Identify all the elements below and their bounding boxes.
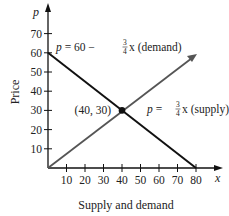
y-tick-label: 10 xyxy=(31,143,43,155)
y-tick-label: 60 xyxy=(31,47,43,59)
y-axis-symbol: p xyxy=(32,5,39,19)
y-tick-label: 70 xyxy=(31,28,43,40)
y-axis-arrow-icon xyxy=(45,3,51,12)
x-tick-label: 70 xyxy=(172,174,184,186)
supply-demand-chart: 10 20 30 40 50 60 70 10 20 30 40 50 60 7… xyxy=(0,0,229,216)
demand-frac-den: 4 xyxy=(123,47,127,56)
y-tick-label: 20 xyxy=(31,124,43,136)
x-tick-label: 10 xyxy=(61,174,73,186)
demand-frac-num: 3 xyxy=(123,38,127,47)
x-tick-label: 40 xyxy=(116,174,128,186)
x-tick-label: 80 xyxy=(190,174,202,186)
equilibrium-label: (40, 30) xyxy=(75,104,112,117)
x-axis-title: Supply and demand xyxy=(78,198,173,212)
supply-prefix: = xyxy=(153,103,162,115)
x-tick-label: 50 xyxy=(135,174,147,186)
y-tick-label: 30 xyxy=(31,104,43,116)
demand-prefix: = 60 − xyxy=(62,41,95,53)
y-tick-label: 50 xyxy=(31,66,43,78)
demand-suffix: x (demand) xyxy=(129,41,182,54)
y-ticks: 10 20 30 40 50 60 70 xyxy=(31,28,53,155)
equilibrium-point xyxy=(119,107,126,114)
x-tick-label: 60 xyxy=(153,174,165,186)
x-tick-label: 20 xyxy=(79,174,91,186)
supply-frac-den: 4 xyxy=(176,109,180,118)
supply-suffix: x (supply) xyxy=(182,103,229,116)
supply-equation-label: p = 3 4 x (supply) xyxy=(146,100,229,118)
x-tick-label: 30 xyxy=(98,174,110,186)
svg-text:p = 60 −: p = 60 − xyxy=(55,41,95,54)
svg-text:x (supply): x (supply) xyxy=(182,103,229,116)
supply-frac-num: 3 xyxy=(176,100,180,109)
x-ticks: 10 20 30 40 50 60 70 80 xyxy=(61,164,202,186)
svg-text:p =: p = xyxy=(146,103,162,116)
axes xyxy=(45,3,223,171)
demand-equation-label: p = 60 − 3 4 x (demand) xyxy=(55,38,182,56)
y-tick-label: 40 xyxy=(31,85,43,97)
x-axis-symbol: x xyxy=(214,171,221,185)
svg-text:x (demand): x (demand) xyxy=(129,41,182,54)
y-axis-title: Price xyxy=(8,80,22,105)
